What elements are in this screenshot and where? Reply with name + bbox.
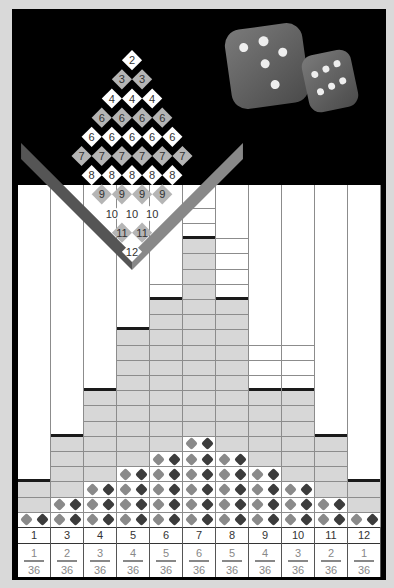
bar-cell [183, 284, 215, 299]
bar-cell [348, 481, 380, 496]
bar-cell [150, 405, 182, 420]
die-icon [135, 468, 148, 481]
die-icon [350, 514, 363, 527]
svg-text:10: 10 [126, 208, 138, 220]
bar-cell [84, 405, 116, 420]
svg-text:10: 10 [106, 208, 118, 220]
die-icon [218, 483, 231, 496]
empty-cell [282, 360, 314, 375]
die-icon [300, 483, 313, 496]
die-icon [366, 514, 379, 527]
label-column: 7636 [183, 527, 216, 577]
label-column: 3236 [51, 527, 84, 577]
step-line [216, 297, 248, 300]
bar-cell [150, 299, 182, 314]
sum-label: 10 [282, 527, 314, 544]
die-icon [168, 453, 181, 466]
die-icon [300, 514, 313, 527]
dice-pair [249, 512, 281, 527]
die-icon [69, 514, 82, 527]
step-line [282, 388, 314, 391]
die-icon [102, 483, 115, 496]
die-icon [168, 483, 181, 496]
step-line [348, 479, 380, 482]
die-icon [152, 483, 165, 496]
die-icon [284, 483, 297, 496]
svg-text:7: 7 [78, 150, 84, 162]
svg-text:8: 8 [149, 169, 155, 181]
svg-text:7: 7 [99, 150, 105, 162]
probability-fraction: 536 [150, 544, 182, 577]
dice-pair [249, 466, 281, 481]
die-icon [119, 483, 132, 496]
bar-cell [216, 421, 248, 436]
svg-text:6: 6 [129, 131, 135, 143]
bar-cell [84, 451, 116, 466]
bar-cell [216, 360, 248, 375]
die-icon [135, 498, 148, 511]
probability-fraction: 136 [18, 544, 50, 577]
probability-fraction: 436 [249, 544, 281, 577]
dice-pair [282, 481, 314, 496]
bar-cell [315, 466, 347, 481]
dice-pair [216, 481, 248, 496]
bar-cell [150, 375, 182, 390]
svg-text:6: 6 [139, 112, 145, 124]
bar-cell [84, 421, 116, 436]
die-icon [234, 498, 247, 511]
die-icon [284, 498, 297, 511]
dice-pair [117, 466, 149, 481]
die-icon [86, 483, 99, 496]
step-line [84, 388, 116, 391]
die-icon [185, 468, 198, 481]
die-icon [185, 514, 198, 527]
die-icon [20, 514, 33, 527]
label-column: 9436 [249, 527, 282, 577]
dice-pair [150, 497, 182, 512]
dice-pair [51, 497, 83, 512]
dice-pair [84, 512, 116, 527]
bar-cell [282, 421, 314, 436]
bar-cell [216, 375, 248, 390]
dice-pair [117, 512, 149, 527]
chart-column-11 [315, 185, 348, 527]
sum-board: 2334446666666667777778888899991010101111… [16, 40, 248, 272]
bar-cell [183, 329, 215, 344]
step-line [150, 297, 182, 300]
step-line [117, 327, 149, 330]
die-icon [86, 514, 99, 527]
bar-cell [282, 405, 314, 420]
bar-cell [315, 451, 347, 466]
die-icon [218, 514, 231, 527]
bar-cell [216, 314, 248, 329]
bar-cell [315, 436, 347, 451]
bar-cell [183, 390, 215, 405]
sum-label: 6 [150, 527, 182, 544]
die-icon [267, 498, 280, 511]
empty-cell [249, 360, 281, 375]
die-icon [119, 498, 132, 511]
die-icon [218, 453, 231, 466]
bar-cell [282, 390, 314, 405]
dice-pair [216, 512, 248, 527]
sum-label: 9 [249, 527, 281, 544]
dice-pair [216, 451, 248, 466]
probability-fraction: 336 [84, 544, 116, 577]
bar-cell [249, 451, 281, 466]
dice-pair [183, 497, 215, 512]
die-icon [201, 468, 214, 481]
chart-column-10 [282, 185, 315, 527]
bar-cell [249, 390, 281, 405]
label-column: 1136 [18, 527, 51, 577]
svg-text:11: 11 [136, 227, 147, 239]
bar-cell [117, 375, 149, 390]
die-icon [234, 483, 247, 496]
dice-pair [150, 466, 182, 481]
svg-text:6: 6 [159, 112, 165, 124]
dice-pair [183, 466, 215, 481]
step-line [249, 388, 281, 391]
die-icon [333, 514, 346, 527]
svg-text:8: 8 [129, 169, 135, 181]
svg-text:3: 3 [139, 73, 145, 85]
bar-cell [216, 390, 248, 405]
